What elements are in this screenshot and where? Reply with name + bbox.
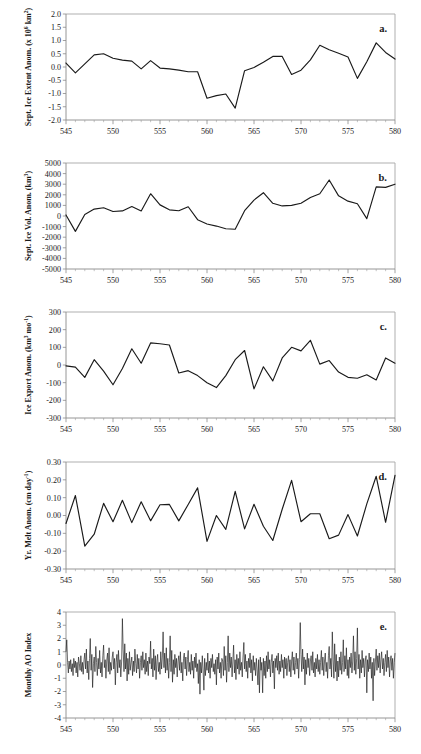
y-tick-label: 0.30: [47, 458, 61, 467]
x-tick-label: 570: [295, 576, 307, 585]
x-tick-label: 555: [154, 425, 166, 434]
y-tick-label: -1000: [42, 223, 61, 232]
x-tick-label: 580: [389, 725, 401, 734]
y-tick-label: 0.5: [51, 50, 61, 59]
y-tick-label: 0.00: [47, 511, 61, 520]
y-tick-label: 0: [57, 661, 61, 670]
plot-frame: [66, 312, 395, 418]
y-tick-label: 1.0: [51, 36, 61, 45]
y-tick-label: -3000: [42, 244, 61, 253]
y-tick-label: 1.5: [51, 23, 61, 32]
y-tick-label: 5000: [45, 159, 61, 168]
x-tick-label: 555: [154, 725, 166, 734]
data-series-line: [66, 475, 395, 546]
y-tick-label: -1.5: [48, 103, 61, 112]
x-tick-label: 545: [60, 425, 72, 434]
y-tick-label: -0.5: [48, 76, 61, 85]
y-tick-label: -2: [54, 687, 61, 696]
panel-letter: a.: [379, 23, 387, 34]
y-tick-label: 4: [57, 608, 61, 617]
x-tick-label: 550: [107, 127, 119, 136]
y-tick-label: 0.20: [47, 476, 61, 485]
x-tick-label: 545: [60, 725, 72, 734]
y-tick-label: -0.20: [44, 547, 61, 556]
panel-letter: d.: [379, 471, 388, 482]
x-tick-label: 575: [342, 576, 354, 585]
y-tick-label: 4000: [45, 170, 61, 179]
x-tick-label: 560: [201, 127, 213, 136]
y-tick-label: -5000: [42, 265, 61, 274]
y-axis-title: Yr. Melt Anom. (cm day-1): [23, 470, 33, 560]
x-tick-label: 545: [60, 127, 72, 136]
panel-letter: c.: [380, 321, 388, 332]
y-tick-label: 2000: [45, 191, 61, 200]
y-tick-label: 0.0: [51, 63, 61, 72]
y-tick-label: 0.10: [47, 494, 61, 503]
x-tick-label: 560: [201, 276, 213, 285]
x-tick-label: 565: [248, 425, 260, 434]
multi-panel-timeseries-figure: -2.0-1.5-1.0-0.50.00.51.01.52.0545550555…: [0, 0, 421, 754]
y-tick-label: 200: [49, 326, 61, 335]
y-tick-label: 2.0: [51, 10, 61, 19]
y-tick-label: 3000: [45, 180, 61, 189]
y-tick-label: 300: [49, 308, 61, 317]
y-tick-label: 1: [57, 648, 61, 657]
y-tick-label: 3: [57, 621, 61, 630]
x-tick-label: 560: [201, 725, 213, 734]
x-tick-label: 570: [295, 425, 307, 434]
x-tick-label: 550: [107, 425, 119, 434]
x-tick-label: 580: [389, 127, 401, 136]
x-tick-label: 575: [342, 725, 354, 734]
y-tick-label: -3: [54, 701, 61, 710]
chart-panel-b: -5000-4000-3000-2000-1000010002000300040…: [0, 157, 421, 299]
data-series-line: [66, 180, 395, 231]
x-tick-label: 565: [248, 127, 260, 136]
y-tick-label: -1: [54, 674, 61, 683]
y-tick-label: -1.0: [48, 89, 61, 98]
x-tick-label: 555: [154, 276, 166, 285]
plot-frame: [66, 14, 395, 120]
chart-panel-c: -300-200-1000100200300545550555560565570…: [0, 306, 421, 448]
y-axis-title: Monthly AO Index: [24, 633, 33, 697]
y-tick-label: -2000: [42, 233, 61, 242]
x-tick-label: 580: [389, 576, 401, 585]
y-axis: -0.30-0.20-0.100.000.100.200.30: [44, 458, 66, 574]
panel-letter: b.: [379, 172, 388, 183]
x-axis: 545550555560565570575580: [60, 718, 401, 734]
panel-plot-area: -300-200-1000100200300545550555560565570…: [0, 306, 421, 448]
x-tick-label: 560: [201, 576, 213, 585]
x-tick-label: 580: [389, 425, 401, 434]
plot-frame: [66, 163, 395, 269]
x-axis: 545550555560565570575580: [60, 269, 401, 285]
x-tick-label: 580: [389, 276, 401, 285]
panel-plot-area: -4-3-2-101234545550555560565570575580e.M…: [0, 606, 421, 748]
y-tick-label: -4000: [42, 254, 61, 263]
panel-plot-area: -5000-4000-3000-2000-1000010002000300040…: [0, 157, 421, 299]
y-tick-label: -100: [46, 379, 61, 388]
panel-plot-area: -0.30-0.20-0.100.000.100.200.30545550555…: [0, 456, 421, 599]
x-tick-label: 570: [295, 127, 307, 136]
data-series-line: [66, 619, 395, 701]
x-tick-label: 575: [342, 127, 354, 136]
y-tick-label: 2: [57, 634, 61, 643]
x-tick-label: 565: [248, 576, 260, 585]
y-tick-label: 0: [57, 212, 61, 221]
y-axis-title: Sept. Ice Vol. Anom. (km3): [23, 171, 33, 261]
x-tick-label: 550: [107, 276, 119, 285]
y-axis-title: Ice Export Anom. (km3 mo-1): [23, 315, 33, 415]
x-tick-label: 560: [201, 425, 213, 434]
y-tick-label: -200: [46, 396, 61, 405]
y-tick-label: -0.10: [44, 529, 61, 538]
panel-plot-area: -2.0-1.5-1.0-0.50.00.51.01.52.0545550555…: [0, 8, 421, 150]
y-axis: -300-200-1000100200300: [46, 308, 66, 423]
data-series-line: [66, 43, 395, 108]
y-tick-label: 0: [57, 361, 61, 370]
x-tick-label: 565: [248, 276, 260, 285]
y-axis: -5000-4000-3000-2000-1000010002000300040…: [42, 159, 66, 274]
y-tick-label: 100: [49, 343, 61, 352]
x-tick-label: 545: [60, 576, 72, 585]
x-tick-label: 555: [154, 576, 166, 585]
x-tick-label: 550: [107, 576, 119, 585]
x-tick-label: 575: [342, 425, 354, 434]
x-tick-label: 550: [107, 725, 119, 734]
